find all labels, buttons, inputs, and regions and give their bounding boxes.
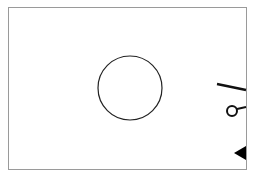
diagram-canvas xyxy=(0,0,257,178)
small-circle-icon xyxy=(227,106,237,116)
frame xyxy=(9,8,247,170)
